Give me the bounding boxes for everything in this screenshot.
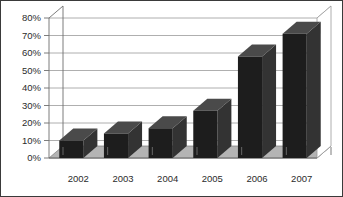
x-axis-tick-label: 2003	[112, 173, 133, 184]
y-axis-tick-label: 70%	[22, 30, 42, 41]
bar-chart: 0%10%20%30%40%50%60%70%80% 2002200320042…	[1, 1, 343, 197]
bar	[283, 22, 321, 158]
y-axis-tick-label: 20%	[22, 117, 42, 128]
y-axis-tick-label: 60%	[22, 47, 42, 58]
y-axis-tick-label: 10%	[22, 135, 42, 146]
x-axis-tick-label: 2006	[246, 173, 267, 184]
x-axis-tick-label: 2005	[202, 173, 223, 184]
bar	[238, 45, 276, 159]
x-axis-tick-label: 2004	[157, 173, 178, 184]
bar	[193, 99, 231, 158]
y-axis-tick-labels: 0%10%20%30%40%50%60%70%80%	[22, 12, 42, 163]
y-axis-tick-label: 50%	[22, 65, 42, 76]
y-axis-tick-label: 40%	[22, 82, 42, 93]
x-axis-tick-label: 2007	[291, 173, 312, 184]
y-axis-tick-label: 80%	[22, 12, 42, 23]
y-axis-tick-label: 0%	[27, 152, 41, 163]
x-axis-tick-label: 2002	[68, 173, 89, 184]
chart-container: 0%10%20%30%40%50%60%70%80% 2002200320042…	[0, 0, 343, 197]
y-axis-tick-label: 30%	[22, 100, 42, 111]
